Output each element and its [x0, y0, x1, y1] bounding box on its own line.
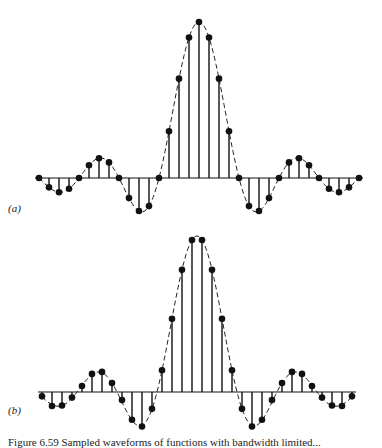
sample-point [166, 128, 173, 135]
sample-point [309, 383, 316, 390]
sample-point [226, 128, 233, 135]
panel-b-stem-plot [38, 236, 356, 430]
sample-point [299, 371, 306, 378]
sample-point [119, 397, 126, 404]
sample-point [49, 403, 56, 410]
figure-caption: Figure 6.59 Sampled waveforms of functio… [8, 436, 382, 448]
sample-point [86, 162, 93, 169]
sample-point [196, 19, 203, 26]
sample-point [169, 315, 176, 322]
sample-point [159, 367, 166, 374]
panel-a-label: (a) [8, 202, 21, 214]
sample-point [136, 208, 143, 215]
sample-point [46, 184, 53, 191]
sample-point [126, 195, 133, 202]
sample-point [289, 369, 296, 376]
sinc-envelope-curve [42, 236, 352, 426]
sample-point [116, 175, 123, 182]
sample-point [206, 34, 213, 41]
sample-point [216, 75, 223, 82]
sample-point [236, 175, 243, 182]
sample-point [56, 189, 63, 196]
sample-point [256, 208, 263, 215]
sample-point [109, 380, 116, 387]
sample-point [76, 175, 83, 182]
sample-point [246, 203, 253, 210]
sample-point [189, 237, 196, 244]
sample-point [39, 393, 46, 400]
sample-point [239, 406, 246, 413]
sample-point [96, 155, 103, 162]
sample-point [59, 402, 66, 409]
sample-point [296, 155, 303, 162]
sample-point [106, 159, 113, 166]
panel-a-stem-plot [35, 19, 363, 215]
sample-point [346, 184, 353, 191]
sample-point [249, 423, 256, 430]
sample-point [229, 367, 236, 374]
sample-point [209, 266, 216, 273]
sample-point [329, 402, 336, 409]
sample-point [66, 185, 73, 192]
sample-point [276, 175, 283, 182]
sample-point [89, 371, 96, 378]
sample-point [259, 416, 266, 423]
panel-b-label: (b) [8, 404, 21, 416]
sample-point [99, 369, 106, 376]
sample-point [349, 393, 356, 400]
sample-point [139, 423, 146, 430]
sample-point [179, 266, 186, 273]
sample-point [269, 397, 276, 404]
sample-point [79, 383, 86, 390]
sample-point [319, 394, 326, 401]
sample-point [176, 75, 183, 82]
sample-point [339, 403, 346, 410]
sample-point [306, 162, 313, 169]
sample-point [279, 380, 286, 387]
sample-point [36, 175, 43, 182]
sample-point [266, 195, 273, 202]
sample-point [186, 34, 193, 41]
sample-point [199, 237, 206, 244]
sample-point [286, 159, 293, 166]
sample-point [156, 175, 163, 182]
sample-point [326, 185, 333, 192]
sample-point [69, 394, 76, 401]
sample-point [336, 189, 343, 196]
sample-point [149, 406, 156, 413]
sample-point [356, 175, 363, 182]
sample-point [316, 175, 323, 182]
sample-point [146, 203, 153, 210]
sample-point [219, 315, 226, 322]
sample-point [129, 416, 136, 423]
